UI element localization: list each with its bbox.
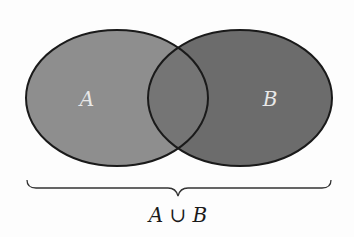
- set-b-label: B: [262, 87, 278, 111]
- union-label: A ∪ B: [147, 203, 208, 227]
- venn-diagram: A B A ∪ B: [0, 0, 354, 237]
- union-brace: [27, 180, 331, 196]
- set-a-label: A: [78, 87, 94, 111]
